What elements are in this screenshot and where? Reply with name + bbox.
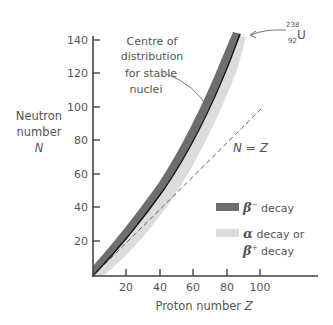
y-tick-100: 100: [67, 101, 88, 114]
nuclide-stability-chart: 140 120 100 80 60 40 20 20 40 60 80 100 …: [0, 0, 333, 325]
n-equals-z-line: [93, 107, 263, 276]
y-tick-80: 80: [74, 134, 88, 147]
x-ticks: [126, 269, 260, 276]
legend-label-beta-plus: β+ decay: [242, 243, 295, 258]
x-tick-80: 80: [220, 281, 234, 294]
y-tick-20: 20: [74, 235, 88, 248]
n-equals-z-label: N = Z: [233, 141, 269, 155]
legend-swatch-beta-minus: [216, 203, 239, 211]
legend-label-beta-minus: β− decay: [242, 200, 295, 215]
svg-text:number: number: [17, 125, 62, 139]
svg-text:U: U: [297, 28, 306, 42]
x-tick-labels: 20 40 60 80 100: [119, 281, 271, 294]
x-tick-100: 100: [250, 281, 271, 294]
uranium-pointer-arrow: [251, 30, 286, 35]
uranium-label: 238 92 U: [286, 21, 306, 45]
legend-swatch-alpha-beta-plus: [216, 229, 239, 237]
svg-text:nuclei: nuclei: [130, 83, 163, 96]
x-axis-title: Proton number Z: [155, 299, 253, 313]
svg-text:92: 92: [288, 37, 297, 45]
svg-text:N: N: [35, 141, 44, 155]
centre-annotation: Centre of distribution for stable nuclei: [121, 35, 184, 96]
y-ticks: [93, 40, 100, 241]
y-tick-140: 140: [67, 34, 88, 47]
legend: β− decay α decay or β+ decay: [216, 200, 305, 258]
y-tick-60: 60: [74, 168, 88, 181]
svg-text:Centre of: Centre of: [127, 35, 179, 48]
x-tick-20: 20: [119, 281, 133, 294]
legend-label-alpha: α decay or: [243, 226, 305, 241]
y-axis-title: Neutron number N: [16, 109, 62, 155]
svg-text:for stable: for stable: [125, 67, 177, 80]
y-tick-40: 40: [74, 201, 88, 214]
y-tick-120: 120: [67, 67, 88, 80]
x-tick-40: 40: [153, 281, 167, 294]
svg-text:distribution: distribution: [121, 50, 184, 63]
y-tick-labels: 140 120 100 80 60 40 20: [67, 34, 88, 248]
svg-text:Neutron: Neutron: [16, 109, 62, 123]
x-tick-60: 60: [186, 281, 200, 294]
